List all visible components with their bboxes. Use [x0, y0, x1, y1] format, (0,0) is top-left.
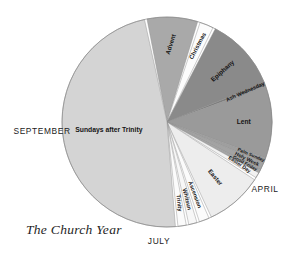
month-marker: SEPTEMBER [13, 126, 70, 136]
figure-caption: The Church Year [26, 222, 122, 238]
pie-slice-label: Lent [237, 118, 252, 125]
church-year-figure: AdventChristmasEpiphanyAsh WednesdayLent… [0, 0, 296, 255]
pie-chart: AdventChristmasEpiphanyAsh WednesdayLent… [0, 0, 296, 255]
pie-slice-label: Sundays after Trinity [75, 126, 142, 134]
month-marker: APRIL [251, 184, 278, 194]
month-marker: JULY [148, 236, 170, 246]
